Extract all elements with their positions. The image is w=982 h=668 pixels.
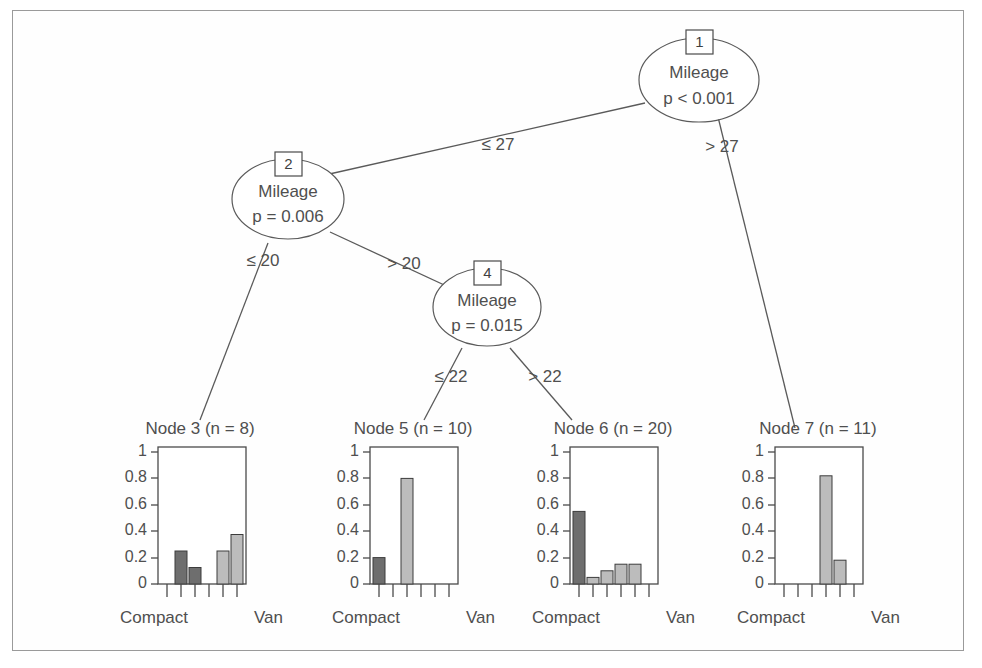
node-1-variable-label: Mileage	[669, 63, 729, 82]
bar-6-3	[601, 571, 613, 584]
leaf-node-3[interactable]: Node 3 (n = 8) 1 0.8 0.6 0.4 0.2 0	[120, 419, 283, 627]
bar-6-5	[629, 564, 641, 584]
bar-5-1	[373, 558, 385, 584]
leaf-node-3-ytick-0.2: 0.2	[125, 548, 147, 565]
leaf-node-7-xlabel-van: Van	[871, 608, 900, 627]
leaf-node-5-y-axis: 1 0.8 0.6 0.4 0.2 0	[337, 442, 370, 591]
node-4-variable-label: Mileage	[457, 291, 517, 310]
bar-5-3	[401, 478, 413, 584]
inner-node-1[interactable]: 1 Mileage p < 0.001	[639, 30, 759, 122]
leaf-node-3-ytick-1: 1	[138, 442, 147, 459]
leaf-node-5-ytick-0.4: 0.4	[337, 521, 359, 538]
leaf-node-6-ytick-0.4: 0.4	[537, 521, 559, 538]
bar-7-4	[820, 476, 832, 584]
decision-tree-canvas: 1 Mileage p < 0.001 2 Mileage p = 0.006 …	[0, 0, 982, 668]
bar-3-2	[175, 551, 187, 584]
leaf-node-7-ytick-0.2: 0.2	[742, 548, 764, 565]
node-1-id-label: 1	[695, 33, 703, 50]
leaf-node-3-ytick-0.6: 0.6	[125, 495, 147, 512]
bar-6-2	[587, 577, 599, 584]
leaf-node-3-x-ticks	[167, 584, 237, 597]
leaf-node-6-ytick-0.2: 0.2	[537, 548, 559, 565]
edge-label-node1-left: ≤ 27	[482, 135, 515, 154]
leaf-node-3-xlabel-van: Van	[254, 608, 283, 627]
bar-6-4	[615, 564, 627, 584]
leaf-node-3-ytick-0.4: 0.4	[125, 521, 147, 538]
leaf-node-3-ytick-0: 0	[138, 574, 147, 591]
leaf-node-6-ytick-0: 0	[550, 574, 559, 591]
edge-label-node1-right: > 27	[705, 137, 739, 156]
inner-node-4[interactable]: 4 Mileage p = 0.015	[433, 261, 541, 346]
leaf-node-5-ytick-0.8: 0.8	[337, 468, 359, 485]
edge-label-node4-left: ≤ 22	[435, 367, 468, 386]
tree-diagram-page: 1 Mileage p < 0.001 2 Mileage p = 0.006 …	[0, 0, 982, 668]
leaf-node-7-plot-frame	[775, 447, 863, 584]
leaf-node-3-y-axis: 1 0.8 0.6 0.4 0.2 0	[125, 442, 158, 591]
leaf-node-7-x-ticks	[784, 584, 854, 597]
leaf-node-7-ytick-1: 1	[755, 442, 764, 459]
leaf-node-5-ytick-0: 0	[350, 574, 359, 591]
bar-3-6	[231, 535, 243, 585]
bar-3-3	[189, 568, 201, 585]
leaf-node-6-xlabel-compact: Compact	[532, 608, 600, 627]
node-2-pvalue-label: p = 0.006	[252, 207, 323, 226]
leaf-node-6-xlabel-van: Van	[666, 608, 695, 627]
leaf-node-7-ytick-0.8: 0.8	[742, 468, 764, 485]
leaf-node-7-y-axis: 1 0.8 0.6 0.4 0.2 0	[742, 442, 775, 591]
leaf-node-6-x-ticks	[579, 584, 649, 597]
leaf-node-5-xlabel-van: Van	[466, 608, 495, 627]
leaf-node-5[interactable]: Node 5 (n = 10) 1 0.8 0.6 0.4 0.2 0	[332, 419, 495, 627]
leaf-node-5-ytick-0.6: 0.6	[337, 495, 359, 512]
leaf-node-6-y-axis: 1 0.8 0.6 0.4 0.2 0	[537, 442, 570, 591]
leaf-node-7-title: Node 7 (n = 11)	[759, 419, 876, 438]
leaf-node-5-xlabel-compact: Compact	[332, 608, 400, 627]
leaf-node-6-ytick-0.8: 0.8	[537, 468, 559, 485]
leaf-node-3-xlabel-compact: Compact	[120, 608, 188, 627]
leaf-node-7-ytick-0: 0	[755, 574, 764, 591]
leaf-node-6-title: Node 6 (n = 20)	[554, 419, 673, 438]
leaf-node-5-ytick-1: 1	[350, 442, 359, 459]
leaf-node-6[interactable]: Node 6 (n = 20) 1 0.8 0.6 0.4 0.2 0	[532, 419, 695, 627]
leaf-node-7-xlabel-compact: Compact	[737, 608, 805, 627]
leaf-node-3-ytick-0.8: 0.8	[125, 468, 147, 485]
leaf-node-6-ytick-0.6: 0.6	[537, 495, 559, 512]
leaf-node-3-title: Node 3 (n = 8)	[145, 419, 254, 438]
leaf-node-6-ytick-1: 1	[550, 442, 559, 459]
leaf-node-7[interactable]: Node 7 (n = 11) 1 0.8 0.6 0.4 0.2 0	[737, 419, 900, 627]
leaf-node-5-title: Node 5 (n = 10)	[354, 419, 473, 438]
inner-node-2[interactable]: 2 Mileage p = 0.006	[232, 152, 344, 239]
edge-node1-to-node7	[718, 117, 795, 428]
bar-3-5	[217, 551, 229, 584]
node-1-pvalue-label: p < 0.001	[663, 89, 734, 108]
leaf-node-5-ytick-0.2: 0.2	[337, 548, 359, 565]
node-4-id-label: 4	[483, 264, 491, 281]
bar-7-5	[834, 560, 846, 584]
edge-label-node2-right: > 20	[387, 254, 421, 273]
edge-label-node4-right: > 22	[528, 367, 562, 386]
bar-6-1	[573, 511, 585, 584]
node-2-variable-label: Mileage	[258, 182, 318, 201]
leaf-node-7-ytick-0.4: 0.4	[742, 521, 764, 538]
node-2-id-label: 2	[284, 155, 292, 172]
edge-label-node2-left: ≤ 20	[247, 251, 280, 270]
leaf-node-7-ytick-0.6: 0.6	[742, 495, 764, 512]
node-4-pvalue-label: p = 0.015	[451, 316, 522, 335]
leaf-node-5-x-ticks	[379, 584, 449, 597]
